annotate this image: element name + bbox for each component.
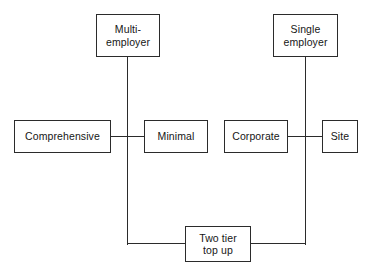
node-two-tier-top-up[interactable]: Two tier top up — [185, 226, 251, 262]
node-corporate[interactable]: Corporate — [224, 120, 288, 153]
node-single-employer[interactable]: Single employer — [273, 14, 338, 57]
node-label-site: Site — [329, 130, 352, 143]
node-label-corporate: Corporate — [230, 130, 282, 143]
edge-multi-employer-stem — [127, 57, 128, 245]
node-label-minimal: Minimal — [156, 130, 197, 143]
diagram-canvas: Multi- employer Single employer Comprehe… — [0, 0, 371, 276]
node-minimal[interactable]: Minimal — [144, 120, 208, 153]
node-label-two-tier-top-up: Two tier top up — [197, 232, 239, 257]
node-label-multi-employer: Multi- employer — [104, 23, 152, 48]
node-label-comprehensive: Comprehensive — [23, 130, 102, 143]
edge-corporate-to-site — [288, 136, 322, 137]
node-label-single-employer: Single employer — [282, 23, 330, 48]
edge-single-employer-stem — [305, 57, 306, 245]
node-multi-employer[interactable]: Multi- employer — [96, 14, 160, 57]
edge-left-leg-to-two-tier — [127, 243, 185, 244]
edge-comprehensive-to-minimal — [111, 136, 144, 137]
node-site[interactable]: Site — [322, 120, 358, 153]
edge-right-leg-to-two-tier — [251, 243, 306, 244]
node-comprehensive[interactable]: Comprehensive — [14, 120, 111, 153]
